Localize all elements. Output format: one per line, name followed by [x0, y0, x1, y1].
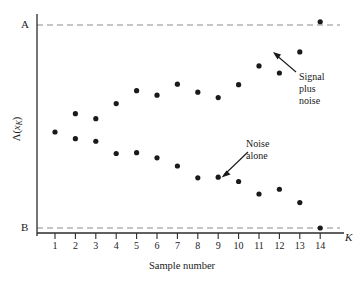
data-point [256, 63, 261, 68]
x-axis-tick-label: 7 [168, 240, 186, 251]
data-point [256, 191, 261, 196]
x-axis-tick-label: 4 [107, 240, 125, 251]
scatter-plot-svg [0, 0, 364, 281]
data-point [195, 90, 200, 95]
threshold-a-label: A [21, 18, 29, 31]
data-point [52, 129, 57, 134]
data-point [277, 187, 282, 192]
data-point [154, 155, 159, 160]
data-point [216, 95, 221, 100]
data-point [134, 150, 139, 155]
data-point [297, 49, 302, 54]
data-point [318, 225, 323, 230]
figure-container: A B K Λ(xK) Sample number Signal plus no… [0, 0, 364, 281]
data-point [134, 88, 139, 93]
x-axis-tick-label: 10 [230, 240, 248, 251]
threshold-lines [37, 25, 340, 228]
data-point [277, 70, 282, 75]
threshold-b-label: B [21, 221, 28, 234]
x-axis-tick-label: 9 [209, 240, 227, 251]
x-axis-tick-label: 3 [87, 240, 105, 251]
y-axis-title-subscript: K [15, 120, 24, 125]
x-axis-ticks [55, 233, 320, 239]
x-axis-tick-label: 8 [189, 240, 207, 251]
x-axis-tick-label: 6 [148, 240, 166, 251]
series-noise-alone-points [73, 136, 323, 231]
x-axis-tick-label: 13 [291, 240, 309, 251]
data-point [93, 139, 98, 144]
data-point [73, 136, 78, 141]
data-point [73, 111, 78, 116]
annotation-signal-plus-noise: Signal plus noise [299, 71, 325, 108]
annotation-noise-alone: Noise alone [246, 138, 269, 162]
data-point [154, 93, 159, 98]
data-point [236, 82, 241, 87]
data-point [236, 179, 241, 184]
arrowhead-noise-alone [222, 171, 231, 178]
y-axis-title: Λ(xK) [11, 99, 25, 159]
x-axis-tick-label: 5 [128, 240, 146, 251]
x-axis-title: Sample number [0, 260, 364, 272]
y-axis-title-close: ) [11, 117, 22, 121]
data-point [318, 19, 323, 24]
data-point [93, 116, 98, 121]
x-axis-tick-label: 14 [311, 240, 329, 251]
x-axis-tick-label: 12 [270, 240, 288, 251]
x-axis-tick-label: 2 [66, 240, 84, 251]
data-point [175, 82, 180, 87]
x-axis-tick-label: 11 [250, 240, 268, 251]
data-point [216, 175, 221, 180]
data-point [195, 175, 200, 180]
y-axis-title-fn: Λ( [11, 130, 22, 141]
data-point [114, 101, 119, 106]
x-axis-tick-label: 1 [46, 240, 64, 251]
data-point [114, 151, 119, 156]
data-point [175, 163, 180, 168]
y-axis-title-variable: x [11, 125, 22, 130]
series-signal-plus-noise-points [52, 19, 322, 134]
x-axis-end-label: K [345, 231, 352, 244]
leader-line-noise-alone [224, 152, 248, 175]
data-point [297, 200, 302, 205]
